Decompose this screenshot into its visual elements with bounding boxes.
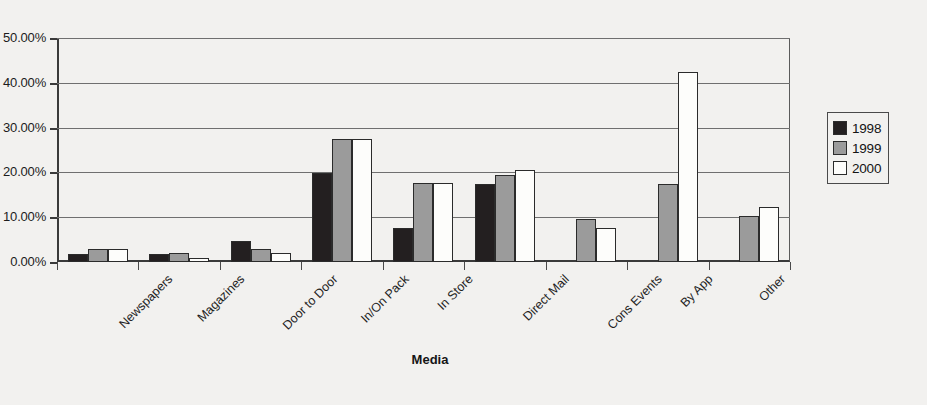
bar-1999 (88, 249, 108, 262)
x-axis-tick (57, 262, 58, 270)
x-axis-category-label: Magazines (195, 272, 248, 325)
bar-2000 (352, 139, 372, 262)
legend-swatch-icon (833, 161, 847, 175)
bar-group (546, 38, 627, 262)
bar-1998 (149, 254, 169, 262)
bar-2000 (678, 72, 698, 262)
bar-1998 (312, 173, 332, 262)
x-axis-category-label: Other (756, 272, 788, 304)
y-axis-tick-label: 50.00% (0, 30, 46, 45)
bar-group (138, 38, 219, 262)
bar-1999 (658, 184, 678, 262)
x-axis-tick (627, 262, 628, 270)
x-axis-category-label: Door to Door (280, 272, 341, 333)
bar-1999 (495, 175, 515, 262)
legend-label: 1998 (852, 121, 881, 136)
legend-swatch-icon (833, 141, 847, 155)
x-axis-tick (546, 262, 547, 270)
bar-1999 (169, 253, 189, 262)
y-axis-tick (50, 128, 57, 130)
bar-1998 (231, 241, 251, 263)
y-axis-tick-label: 0.00% (0, 254, 46, 269)
bar-1998 (68, 254, 88, 262)
legend-label: 1999 (852, 141, 881, 156)
bar-1999 (739, 216, 759, 262)
bar-2000 (596, 228, 616, 262)
bar-2000 (759, 207, 779, 262)
x-axis-category-label: Newspapers (116, 272, 175, 331)
chart-page: 0.00%10.00%20.00%30.00%40.00%50.00% News… (0, 0, 927, 405)
bar-group (627, 38, 708, 262)
bar-1998 (475, 184, 495, 262)
x-axis-tick (138, 262, 139, 270)
bar-1999 (413, 183, 433, 262)
bar-2000 (271, 253, 291, 262)
x-axis-category-label: Cons Events (605, 272, 665, 332)
y-axis-tick-label: 10.00% (0, 209, 46, 224)
bar-1998 (393, 228, 413, 262)
bar-2000 (515, 170, 535, 262)
y-axis-tick-label: 20.00% (0, 164, 46, 179)
y-axis-tick-label: 30.00% (0, 120, 46, 135)
legend-label: 2000 (852, 161, 881, 176)
bar-group (709, 38, 790, 262)
y-axis-tick (50, 262, 57, 264)
x-axis-category-label: In/On Pack (358, 272, 412, 326)
x-axis-tick (383, 262, 384, 270)
y-axis-tick (50, 217, 57, 219)
x-axis-category-label: By App (677, 272, 715, 310)
bar-1999 (332, 139, 352, 262)
bar-group (57, 38, 138, 262)
x-axis-category-label: Direct Mail (520, 272, 572, 324)
bar-group (464, 38, 545, 262)
y-axis-tick (50, 38, 57, 40)
legend-item-1998[interactable]: 1998 (833, 118, 881, 138)
y-axis-tick (50, 172, 57, 174)
legend-item-2000[interactable]: 2000 (833, 158, 881, 178)
bar-1999 (576, 219, 596, 262)
bar-group (220, 38, 301, 262)
x-axis-category-label: In Store (434, 272, 475, 313)
x-axis-title: Media (0, 352, 860, 367)
x-axis-tick (790, 262, 791, 270)
x-axis-tick (220, 262, 221, 270)
bar-group (301, 38, 382, 262)
x-axis-tick (709, 262, 710, 270)
legend-item-1999[interactable]: 1999 (833, 138, 881, 158)
legend-swatch-icon (833, 121, 847, 135)
y-axis-tick-label: 40.00% (0, 75, 46, 90)
bar-group (383, 38, 464, 262)
bar-2000 (433, 183, 453, 262)
x-axis-tick (301, 262, 302, 270)
bars-layer (57, 38, 790, 262)
x-axis-tick (464, 262, 465, 270)
bar-1999 (251, 249, 271, 262)
y-axis-tick (50, 83, 57, 85)
chart-legend: 199819992000 (827, 112, 889, 184)
bar-2000 (189, 258, 209, 262)
bar-2000 (108, 249, 128, 262)
